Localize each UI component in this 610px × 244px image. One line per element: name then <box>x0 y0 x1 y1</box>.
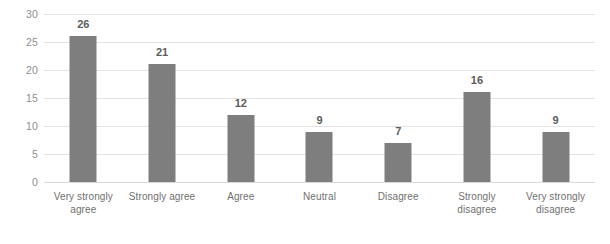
x-axis-tick-label: Very strongly disagree <box>518 190 594 216</box>
bar[interactable] <box>70 36 97 182</box>
y-axis-tick-label: 25 <box>12 37 38 47</box>
bar-slot: 21 <box>123 14 202 182</box>
bar-chart: 051015202530 26211297169 Very strongly a… <box>0 0 610 244</box>
bar-slot: 9 <box>516 14 595 182</box>
y-axis-tick-label: 0 <box>12 177 38 187</box>
bar[interactable] <box>227 115 254 182</box>
x-axis: Very strongly agreeStrongly agreeAgreeNe… <box>44 190 595 236</box>
y-axis-tick-label: 20 <box>12 65 38 75</box>
bar-value-label: 9 <box>553 115 559 126</box>
x-axis-tick-label: Agree <box>203 190 279 203</box>
bar-slot: 16 <box>438 14 517 182</box>
bar[interactable] <box>149 64 176 182</box>
bar-value-label: 26 <box>77 19 89 30</box>
bar-slot: 12 <box>201 14 280 182</box>
gridline <box>44 182 595 183</box>
bar-slot: 9 <box>280 14 359 182</box>
bar[interactable] <box>306 132 333 182</box>
bar-value-label: 21 <box>156 47 168 58</box>
bar-slot: 26 <box>44 14 123 182</box>
bar-value-label: 7 <box>395 126 401 137</box>
x-axis-tick-label: Disagree <box>360 190 436 203</box>
y-axis: 051015202530 <box>10 14 38 182</box>
x-axis-tick-label: Neutral <box>282 190 358 203</box>
plot-area: 26211297169 <box>44 14 595 182</box>
bar-value-label: 12 <box>235 98 247 109</box>
x-axis-tick-label: Very strongly agree <box>46 190 122 216</box>
bar[interactable] <box>463 92 490 182</box>
bar-value-label: 16 <box>471 75 483 86</box>
y-axis-tick-label: 10 <box>12 121 38 131</box>
y-axis-tick-label: 5 <box>12 149 38 159</box>
bar-value-label: 9 <box>316 115 322 126</box>
bar[interactable] <box>542 132 569 182</box>
x-axis-tick-label: Strongly agree <box>124 190 200 203</box>
bar-slot: 7 <box>359 14 438 182</box>
y-axis-tick-label: 15 <box>12 93 38 103</box>
x-axis-tick-label: Strongly disagree <box>439 190 515 216</box>
y-axis-tick-label: 30 <box>12 9 38 19</box>
bar[interactable] <box>385 143 412 182</box>
